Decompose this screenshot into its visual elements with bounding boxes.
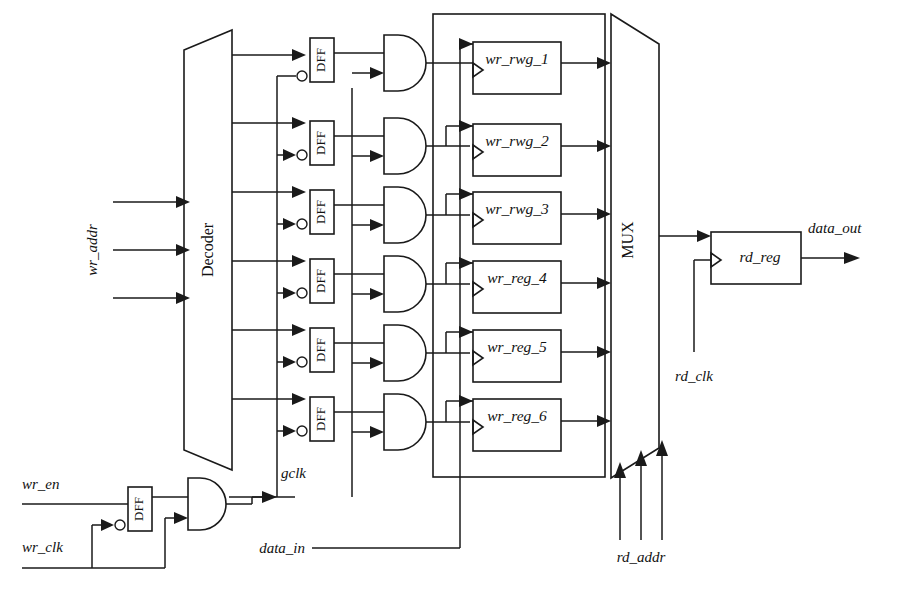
register-label: wr_rwg_2 <box>485 132 549 149</box>
wr-clk-label: wr_clk <box>22 539 63 555</box>
control-logic-group: wr_en DFF wr_clk <box>22 476 277 568</box>
mux-label: MUX <box>619 221 636 259</box>
wr-addr-input-group: wr_addr <box>84 196 190 304</box>
register-block: wr_rwg_2 <box>446 120 611 176</box>
rd-reg-label: rd_reg <box>739 248 780 265</box>
data-out-label: data_out <box>808 220 862 236</box>
register-label: wr_rwg_1 <box>485 50 549 67</box>
dff-label: DFF <box>313 48 328 72</box>
gclk-label: gclk <box>281 465 306 481</box>
register-label: wr_rwg_3 <box>485 200 549 217</box>
rd-clk-label: rd_clk <box>675 368 713 384</box>
dff-label: DFF <box>313 338 328 362</box>
row-6: DFF <box>232 393 470 450</box>
register-label: wr_reg_6 <box>487 407 547 424</box>
register-block: wr_rwg_1 <box>459 38 611 94</box>
row-5: DFF <box>232 324 470 381</box>
dff-label: DFF <box>313 131 328 155</box>
rd-addr-input-group: rd_addr <box>614 440 668 565</box>
row-1: DFF <box>232 35 470 91</box>
wr-addr-label: wr_addr <box>84 224 100 276</box>
rd-clk-input: rd_clk <box>675 260 713 384</box>
dff-label: DFF <box>131 497 146 521</box>
circuit-diagram: Decoder wr_addr gclk DFF <box>0 0 905 598</box>
dff-label: DFF <box>313 407 328 431</box>
register-label: wr_reg_4 <box>487 269 547 286</box>
data-in-label: data_in <box>259 540 305 556</box>
register-block: wr_reg_5 <box>446 326 611 382</box>
mux-output-wire <box>659 230 711 242</box>
rd-reg-block: rd_reg <box>711 232 801 284</box>
dff-label: DFF <box>313 200 328 224</box>
dff-label: DFF <box>313 269 328 293</box>
register-block: wr_rwg_3 <box>446 188 611 244</box>
decoder-label: Decoder <box>199 222 216 277</box>
mux-block: MUX <box>611 14 659 478</box>
row-4: DFF <box>232 255 470 312</box>
decoder-block: Decoder <box>184 30 232 470</box>
rd-addr-label: rd_addr <box>617 549 666 565</box>
register-block: wr_reg_4 <box>446 257 611 313</box>
register-block: wr_reg_6 <box>446 395 611 451</box>
data-out-output: data_out <box>801 220 862 264</box>
wr-en-label: wr_en <box>22 476 60 492</box>
row-2: DFF <box>232 117 470 174</box>
row-3: DFF <box>232 186 470 243</box>
register-label: wr_reg_5 <box>487 338 547 355</box>
